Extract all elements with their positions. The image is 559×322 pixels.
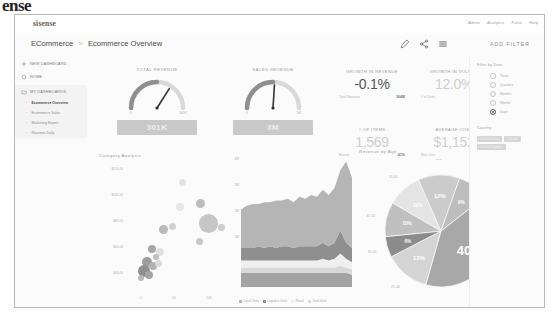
pie-slice-value: 10%	[413, 203, 422, 208]
axis-tick-label: 5K	[172, 296, 176, 300]
filter-tag-label: United States	[480, 137, 499, 141]
breadcrumb: ECommerce > Ecommerce Overview	[31, 39, 162, 48]
legend-swatch	[263, 300, 266, 303]
top-nav-analytics[interactable]: Analytics	[487, 20, 504, 25]
widget-units-area-chart[interactable]: 4M3M2M1M Local UnitsLogistics UnitsRetai…	[227, 153, 352, 308]
radio-button[interactable]	[490, 91, 496, 97]
scatter-bubble[interactable]	[138, 275, 144, 281]
sidebar-dashboard-label: Marketing Report	[32, 121, 59, 125]
top-bar: sisense Admin Analytics Pulse Help	[15, 15, 544, 35]
pie-slice-value: 13%	[413, 255, 426, 261]
filter-tag[interactable]: United States	[477, 136, 502, 142]
scatter-bubble[interactable]	[159, 225, 168, 234]
bullet-icon: •	[26, 132, 29, 135]
add-filter-button[interactable]: ADD FILTER	[490, 41, 530, 47]
pie-slice-value: 12%	[434, 193, 447, 199]
widget-total-revenue-gauge[interactable]: TOTAL REVENUE 0 500K 301K	[101, 67, 213, 135]
area-series[interactable]	[241, 162, 352, 249]
axis-tick-label: 10K	[206, 296, 212, 300]
scatter-bubble[interactable]	[196, 238, 203, 245]
radio-button[interactable]	[490, 82, 496, 88]
radio-button[interactable]	[490, 73, 496, 79]
gauge-max-label: 5M	[297, 111, 302, 115]
filter-option-list: YearsQuartersMonthsWeeksDays	[470, 71, 544, 117]
sidebar-dashboard-label: Ecommerce Overview	[32, 101, 68, 105]
widget-sales-revenue-gauge[interactable]: SALES REVENUE 0 5M 3M	[217, 67, 329, 135]
sidebar-dashboard-marketing-report[interactable]: • Marketing Report	[15, 118, 87, 128]
sidebar-group-my-dashboards: MY DASHBOARDS • Ecommerce Overview • Eco…	[15, 85, 87, 138]
filter-tag[interactable]: Canada	[504, 136, 521, 142]
widget-title: SALES REVENUE	[217, 67, 329, 72]
radio-button[interactable]	[490, 100, 496, 106]
kpi-title: # OF ITEMS	[335, 127, 409, 132]
scatter-bubble[interactable]	[179, 179, 186, 186]
dashboard-canvas: TOTAL REVENUE 0 500K 301K	[87, 57, 470, 307]
legend-swatch	[133, 308, 136, 309]
menu-icon[interactable]	[438, 39, 448, 49]
breadcrumb-current[interactable]: Ecommerce Overview	[88, 39, 162, 48]
kpi-title: GROWTH IN REVENUE	[335, 69, 409, 74]
top-nav-admin[interactable]: Admin	[468, 20, 480, 25]
legend-item[interactable]: Logistics Units	[263, 299, 287, 303]
pie-outer-label: 45-54	[366, 214, 375, 218]
sidebar-item-label: MY DASHBOARDS	[30, 89, 66, 94]
gauge-body: 0 500K	[101, 74, 213, 118]
top-nav-pulse[interactable]: Pulse	[511, 20, 522, 25]
gauge-svg: 0 500K	[121, 74, 193, 116]
gauge-max-label: 500K	[179, 111, 187, 115]
legend-item[interactable]: Cost	[178, 307, 189, 308]
gauge-body: 0 5M	[217, 74, 329, 118]
sidebar-dashboard-ecommerce-overview[interactable]: • Ecommerce Overview	[15, 98, 87, 108]
top-bar-nav: Admin Analytics Pulse Help	[468, 20, 538, 25]
widget-category-analysis-scatter[interactable]: Category Analysis $120.00$100.00$80.00$6…	[95, 153, 227, 308]
scatter-bubble[interactable]	[169, 223, 176, 230]
sidebar-item-my-dashboards[interactable]: MY DASHBOARDS	[15, 85, 87, 98]
scatter-bubble[interactable]	[148, 245, 156, 253]
scatter-bubble[interactable]	[218, 224, 225, 231]
axis-tick-label: 2M	[227, 209, 239, 235]
axis-tick-label: 4M	[227, 157, 239, 183]
filter-option-weeks[interactable]: Weeks	[470, 99, 544, 108]
radio-button[interactable]	[490, 109, 496, 115]
legend-item[interactable]: Sales	[133, 307, 145, 308]
kpi-footer: Total Revenue 364M	[335, 95, 409, 99]
sidebar-dashboard-ecommerce-sales[interactable]: • Ecommerce Sales	[15, 108, 87, 118]
area-y-axis: 4M3M2M1M	[227, 157, 239, 261]
scatter-bubble[interactable]	[145, 271, 153, 279]
legend-item[interactable]: Local Units	[239, 299, 259, 303]
legend-label: Cost	[183, 307, 189, 308]
filter-option-quarters[interactable]: Quarters	[470, 80, 544, 89]
filter-option-months[interactable]: Months	[470, 89, 544, 98]
pencil-icon[interactable]	[400, 39, 410, 49]
pie-outer-label: 55-64	[389, 175, 398, 179]
legend-label: Logistics Units	[267, 299, 287, 303]
filter-option-years[interactable]: Years	[470, 71, 544, 80]
area-legend: Local UnitsLogistics UnitsRetailTotal Un…	[227, 299, 357, 308]
legend-item[interactable]: Total Units	[308, 299, 327, 303]
legend-item[interactable]: Retail	[291, 299, 303, 303]
legend-item[interactable]: Online Sales Quantity	[239, 307, 273, 308]
sidebar-dashboard-revenue-daily[interactable]: • Revenue Daily	[15, 128, 87, 138]
scatter-bubble[interactable]	[196, 199, 205, 208]
pie-slice-value: 6%	[404, 239, 411, 244]
filter-tag[interactable]: United Kingdom	[477, 144, 506, 150]
gauge-min-label: 0	[130, 111, 132, 115]
top-nav-help[interactable]: Help	[529, 20, 538, 25]
folder-icon	[21, 89, 27, 95]
filter-option-days[interactable]: Days	[470, 108, 544, 117]
widget-kpi-growth-in-revenue[interactable]: GROWTH IN REVENUE -0.1% Total Revenue 36…	[335, 69, 409, 99]
kpi-value: -0.1%	[335, 77, 409, 91]
legend-label: Sales	[137, 307, 145, 308]
sisense-logo[interactable]: sisense	[33, 19, 56, 28]
legend-item[interactable]: Units Returned	[149, 307, 174, 308]
screenshot-root: ense sisense Admin Analytics Pulse Help …	[0, 0, 559, 322]
sidebar-item-new-dashboard[interactable]: NEW DASHBOARD	[15, 57, 87, 70]
area-series[interactable]	[241, 273, 352, 287]
gauge-value: 301K	[147, 123, 168, 132]
sidebar-item-home[interactable]: HOME	[15, 70, 87, 83]
scatter-bubble[interactable]	[199, 214, 218, 233]
scatter-bubble[interactable]	[176, 203, 184, 211]
share-icon[interactable]	[419, 39, 429, 49]
scatter-bubble[interactable]	[155, 260, 162, 267]
breadcrumb-root[interactable]: ECommerce	[31, 39, 73, 48]
